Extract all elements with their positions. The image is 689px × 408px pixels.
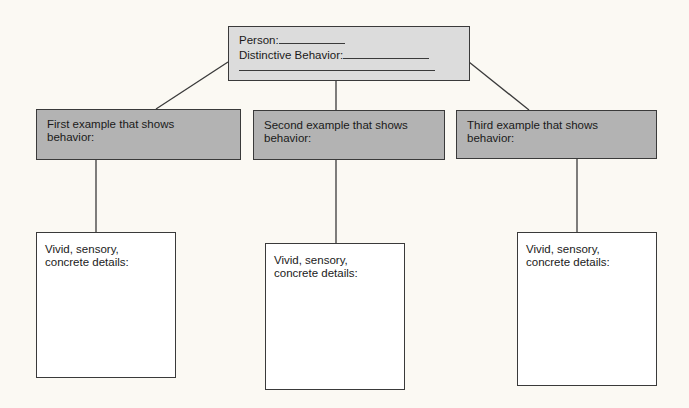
behavior-row: Distinctive Behavior: [239,47,459,62]
third-example-box: Third example that shows behavior: [456,110,657,159]
person-blank[interactable] [279,32,345,44]
behavior-blank[interactable] [343,47,429,59]
connector-top-to-first [156,62,228,109]
behavior-label: Distinctive Behavior: [239,49,343,61]
first-details-box[interactable]: Vivid, sensory, concrete details: [36,232,176,378]
person-behavior-box: Person: Distinctive Behavior: [228,26,470,81]
third-details-box[interactable]: Vivid, sensory, concrete details: [517,232,657,386]
second-details-box[interactable]: Vivid, sensory, concrete details: [265,243,405,390]
first-details-label: Vivid, sensory, concrete details: [45,243,155,269]
third-example-label: Third example that shows behavior: [467,119,617,145]
first-example-box: First example that shows behavior: [36,109,241,160]
third-details-label: Vivid, sensory, concrete details: [526,243,636,269]
person-label: Person: [239,34,279,46]
behavior-blank-line-2[interactable] [239,62,435,71]
person-row: Person: [239,32,459,47]
first-example-label: First example that shows behavior: [47,118,197,144]
second-details-label: Vivid, sensory, concrete details: [274,254,384,280]
second-example-label: Second example that shows behavior: [264,119,429,145]
second-example-box: Second example that shows behavior: [253,110,445,160]
connector-top-to-third [469,62,529,110]
